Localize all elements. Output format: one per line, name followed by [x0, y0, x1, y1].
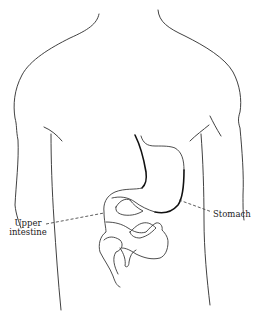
torso-diagram: Upper intestine Stomach: [0, 0, 259, 321]
upper-intestine-label: Upper intestine: [8, 219, 48, 237]
appendix: [120, 248, 136, 267]
left-armpit-crease: [44, 127, 62, 141]
upper-intestine-label-line2: intestine: [8, 228, 48, 237]
intestine-inner-hole: [116, 199, 143, 215]
right-shoulder-outline: [158, 10, 244, 220]
stomach-label: Stomach: [213, 210, 251, 219]
intestine-middle-hole: [130, 223, 156, 238]
upper-intestine-leader: [46, 213, 104, 224]
right-armpit-lower: [190, 125, 209, 141]
stomach-leader: [179, 200, 212, 212]
right-armpit-crease: [210, 116, 221, 136]
intestine-lower-loop: [104, 237, 122, 274]
stomach-greater-curve: [155, 170, 184, 213]
stomach-fundus-top: [141, 136, 184, 170]
right-torso-side: [201, 134, 210, 305]
left-shoulder-outline: [14, 14, 99, 228]
